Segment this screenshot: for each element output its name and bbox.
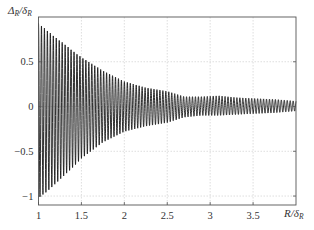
x-tick-label: 3: [208, 210, 213, 221]
x-axis-label: R/δR: [283, 207, 304, 221]
x-tick-label: 1.5: [75, 210, 88, 221]
y-tick-label: 0.5: [20, 56, 33, 67]
x-tick-label: 3.5: [247, 210, 260, 221]
x-tick-label: 1: [36, 210, 41, 221]
x-tick-label: 2: [122, 210, 127, 221]
y-tick-label: −0.5: [14, 146, 33, 157]
y-tick-label: −1: [22, 191, 33, 202]
x-tick-label: 2.5: [161, 210, 174, 221]
grid-lines: [39, 17, 297, 205]
y-axis-label: ΔR/δR: [7, 4, 32, 18]
chart: 11.522.533.5 −1−0.500.5 ΔR/δR R/δR: [0, 0, 314, 230]
y-tick-label: 0: [28, 101, 33, 112]
